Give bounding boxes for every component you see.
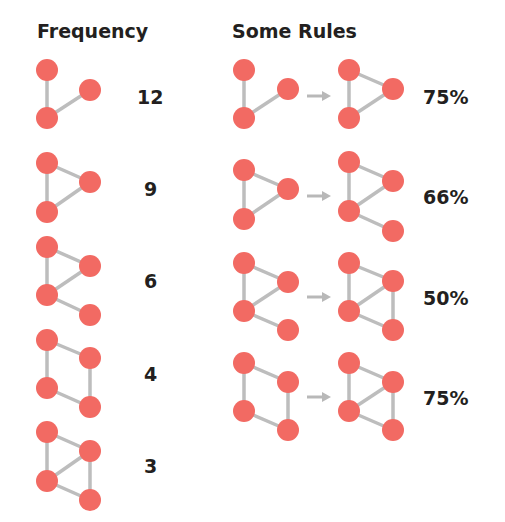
frequency-pattern-2 — [36, 152, 101, 223]
graph-node — [277, 178, 299, 200]
graph-node — [338, 352, 360, 374]
graph-node — [277, 319, 299, 341]
graph-node — [79, 304, 101, 326]
graph-node — [79, 440, 101, 462]
rule-1-consequent — [338, 59, 404, 129]
rule-3-consequent — [338, 252, 404, 341]
graph-node — [79, 489, 101, 511]
graph-node — [79, 79, 101, 101]
frequency-pattern-1 — [36, 59, 101, 129]
graph-node — [79, 396, 101, 418]
frequency-label-4: 4 — [144, 363, 157, 385]
arrow-right-icon — [307, 392, 331, 402]
graph-node — [36, 421, 58, 443]
graph-node — [233, 59, 255, 81]
rule-4-antecedent — [233, 352, 299, 441]
graph-node — [382, 78, 404, 100]
frequency-pattern-4 — [36, 329, 101, 418]
graph-node — [382, 419, 404, 441]
frequency-label-1: 12 — [137, 86, 163, 108]
graph-node — [233, 252, 255, 274]
graph-node — [36, 329, 58, 351]
arrow-right-icon — [307, 91, 331, 101]
frequency-pattern-3 — [36, 236, 101, 326]
rule-2-consequent — [338, 151, 404, 242]
graph-node — [382, 270, 404, 292]
graph-node — [36, 470, 58, 492]
graph-node — [382, 319, 404, 341]
graph-node — [338, 107, 360, 129]
rule-1-antecedent — [233, 59, 299, 129]
graph-node — [338, 59, 360, 81]
graph-node — [36, 201, 58, 223]
frequency-label-3: 6 — [144, 270, 157, 292]
frequency-pattern-5 — [36, 421, 101, 511]
rule-confidence-4: 75% — [423, 387, 468, 409]
graph-node — [233, 159, 255, 181]
arrow-right-icon — [307, 292, 331, 302]
graph-node — [233, 300, 255, 322]
graph-node — [277, 78, 299, 100]
graph-node — [338, 252, 360, 274]
graph-canvas — [0, 0, 505, 522]
graph-node — [233, 208, 255, 230]
graph-node — [338, 200, 360, 222]
graph-node — [382, 170, 404, 192]
frequency-label-2: 9 — [144, 178, 157, 200]
arrow-right-icon — [307, 191, 331, 201]
graph-node — [36, 59, 58, 81]
graph-node — [36, 236, 58, 258]
rule-confidence-1: 75% — [423, 86, 468, 108]
graph-node — [233, 107, 255, 129]
rule-confidence-2: 66% — [423, 186, 468, 208]
frequency-label-5: 3 — [144, 455, 157, 477]
graph-node — [338, 151, 360, 173]
graph-node — [79, 255, 101, 277]
graph-node — [233, 400, 255, 422]
graph-node — [36, 152, 58, 174]
rule-2-antecedent — [233, 159, 299, 230]
graph-node — [338, 400, 360, 422]
graph-node — [338, 300, 360, 322]
graph-node — [79, 347, 101, 369]
graph-node — [382, 220, 404, 242]
graph-node — [36, 284, 58, 306]
graph-node — [233, 352, 255, 374]
rule-4-consequent — [338, 352, 404, 441]
graph-node — [79, 171, 101, 193]
graph-node — [382, 371, 404, 393]
graph-node — [36, 107, 58, 129]
graph-node — [36, 377, 58, 399]
rule-3-antecedent — [233, 252, 299, 341]
graph-node — [277, 271, 299, 293]
graph-node — [277, 371, 299, 393]
graph-node — [277, 419, 299, 441]
rule-confidence-3: 50% — [423, 287, 468, 309]
